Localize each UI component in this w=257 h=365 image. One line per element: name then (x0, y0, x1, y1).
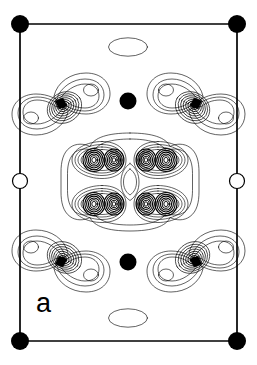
edge-atom-right (230, 174, 245, 189)
panel-label: a (36, 290, 51, 317)
interior-atom-upper (120, 93, 137, 110)
edge-atom-left (13, 174, 28, 189)
contour-map-figure: a (0, 0, 257, 365)
corner-atom-top-left (11, 15, 29, 33)
corner-atom-top-right (228, 15, 246, 33)
corner-atom-bottom-left (11, 332, 29, 350)
corner-atom-bottom-right (228, 332, 246, 350)
interior-atom-lower (120, 254, 137, 271)
